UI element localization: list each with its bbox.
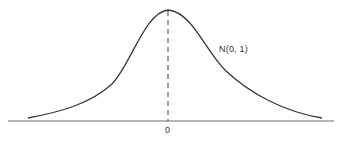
- x-tick-zero: 0: [165, 125, 170, 135]
- distribution-label: N(0, 1): [219, 44, 248, 54]
- normal-curve: [28, 10, 322, 118]
- normal-distribution-chart: [0, 0, 338, 141]
